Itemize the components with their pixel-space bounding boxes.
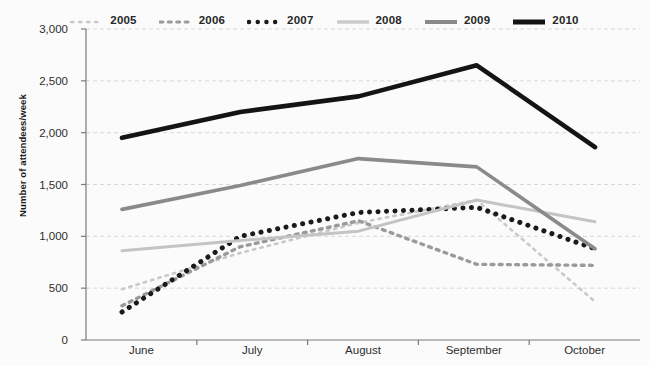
plot-area xyxy=(0,0,649,365)
axis-lines xyxy=(81,29,640,345)
series-line-2010 xyxy=(122,65,595,147)
data-series-group xyxy=(122,65,595,312)
series-line-2005 xyxy=(122,200,595,302)
chart-container: 2005 2006 2007 2008 xyxy=(0,0,649,365)
series-line-2009 xyxy=(122,159,595,249)
series-line-2006 xyxy=(122,221,595,306)
series-line-2008 xyxy=(122,200,595,251)
